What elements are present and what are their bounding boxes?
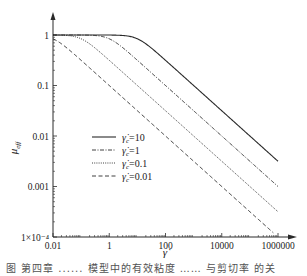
x-tick-label: 10000 xyxy=(210,241,234,251)
y-tick-label: 0.001 xyxy=(28,182,50,192)
x-axis-arrow-icon xyxy=(288,235,297,240)
y-axis-label: μeff xyxy=(7,141,22,156)
legend-label: γ̇c=10 xyxy=(122,132,145,146)
series-line-0_01 xyxy=(53,39,273,233)
x-tick-label: 1 xyxy=(107,241,112,251)
legend-label: γ̇c=1 xyxy=(122,145,140,159)
series-line-0_1 xyxy=(53,35,278,212)
legend-label: γ̇c=0.01 xyxy=(122,171,152,185)
x-tick-label: 0.01 xyxy=(45,241,62,251)
svg-text:μeff: μeff xyxy=(7,141,22,156)
y-axis-label-sub: eff xyxy=(14,141,22,149)
y-tick-label: 0.01 xyxy=(32,132,49,142)
data-series xyxy=(53,35,278,233)
x-tick-label: 1000000 xyxy=(261,241,295,251)
y-axis-arrow-icon xyxy=(51,12,56,20)
series-line-1 xyxy=(53,35,278,187)
axis-ticks: 0.01110010000100000010.10.010.0011×10⁻⁴ xyxy=(21,31,295,252)
y-tick-label: 0.1 xyxy=(37,81,49,91)
axes xyxy=(51,12,298,240)
figure-caption: 图 第四章 ...... 模型中的有效粘度 …… 与剪切率 的关 xyxy=(6,260,306,275)
y-tick-label: 1×10⁻⁴ xyxy=(21,233,50,243)
y-tick-label: 1 xyxy=(44,31,49,41)
series-line-10 xyxy=(53,35,278,161)
legend: γ̇c=10γ̇c=1γ̇c=0.1γ̇c=0.01 xyxy=(92,132,152,185)
legend-label: γ̇c=0.1 xyxy=(122,158,147,172)
